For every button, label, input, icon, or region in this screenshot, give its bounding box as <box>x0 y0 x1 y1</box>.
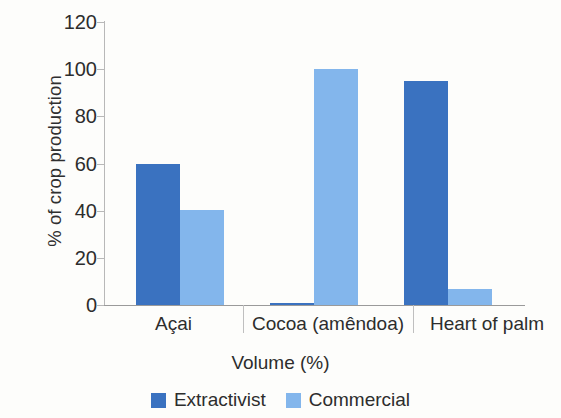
bar-commercial-1 <box>314 69 358 305</box>
x-axis-label-cocoa: Cocoa (amêndoa) <box>243 313 413 335</box>
y-tick-label-20: 20 <box>75 248 97 268</box>
y-tick-label-80: 80 <box>75 106 97 126</box>
plot-area: 0 20 40 60 80 100 120 <box>104 22 508 305</box>
bar-chart: % of crop production 0 20 40 60 80 100 <box>0 0 561 418</box>
legend-label-commercial: Commercial <box>309 389 410 411</box>
legend-swatch-extractivist <box>151 393 166 408</box>
bar-group-0 <box>126 22 238 305</box>
y-tick-label-100: 100 <box>64 59 97 79</box>
legend-item-extractivist: Extractivist <box>151 389 266 411</box>
bar-group-2 <box>394 22 506 305</box>
y-axis-title: % of crop production <box>44 11 66 311</box>
y-tick-label-60: 60 <box>75 154 97 174</box>
bar-commercial-2 <box>448 289 492 306</box>
y-tick-label-40: 40 <box>75 201 97 221</box>
x-axis-title: Volume (%) <box>0 352 561 374</box>
x-axis-label-heart-of-palm: Heart of palm <box>413 313 561 335</box>
legend-item-commercial: Commercial <box>286 389 410 411</box>
x-axis-line <box>104 305 525 306</box>
legend-swatch-commercial <box>286 393 301 408</box>
bar-extractivist-0 <box>136 164 180 306</box>
y-tick-label-120: 120 <box>64 12 97 32</box>
bar-extractivist-2 <box>404 81 448 305</box>
chart-legend: Extractivist Commercial <box>0 389 561 411</box>
legend-label-extractivist: Extractivist <box>174 389 266 411</box>
x-axis-label-acai: Açai <box>104 313 243 335</box>
y-tick-label-0: 0 <box>86 295 97 315</box>
bar-extractivist-1 <box>270 303 314 305</box>
bar-group-1 <box>260 22 372 305</box>
bar-commercial-0 <box>180 210 224 306</box>
